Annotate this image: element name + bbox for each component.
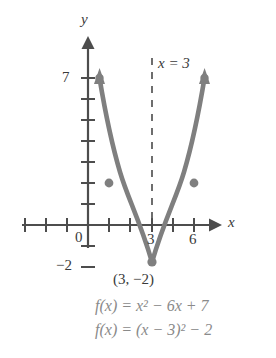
y-tick-label-7: 7 (62, 70, 70, 85)
point-marker-5-2 (190, 179, 199, 188)
point-marker-right-7 (200, 74, 208, 82)
x-axis-arrowhead (209, 219, 222, 232)
vertex-label: (3, −2) (113, 272, 154, 287)
x-tick-label-6: 6 (189, 232, 197, 247)
equation-standard-form-text: f(x) = x² − 6x + 7 (95, 297, 209, 314)
equation-standard-form: f(x) = x² − 6x + 7 (95, 298, 209, 314)
equation-vertex-form: f(x) = (x − 3)² − 2 (95, 322, 212, 338)
y-axis-arrowhead (82, 36, 95, 49)
x-axis-label: x (228, 215, 235, 230)
equation-vertex-form-text: f(x) = (x − 3)² − 2 (95, 321, 212, 338)
axis-of-symmetry-label: x = 3 (158, 56, 190, 71)
quadratic-function-graph: y x 7 −2 0 3 6 x = 3 (3, −2) f(x) = x² −… (0, 0, 276, 358)
point-marker-1-2 (105, 179, 114, 188)
vertex-point-marker (147, 257, 156, 266)
x-tick-label-0: 0 (75, 230, 83, 245)
point-marker-left-7 (95, 74, 103, 82)
x-tick-label-3: 3 (147, 232, 155, 247)
axis-of-symmetry-label-text: x = 3 (158, 55, 190, 71)
y-axis-label: y (81, 12, 88, 27)
y-tick-label-minus-2: −2 (56, 258, 72, 273)
